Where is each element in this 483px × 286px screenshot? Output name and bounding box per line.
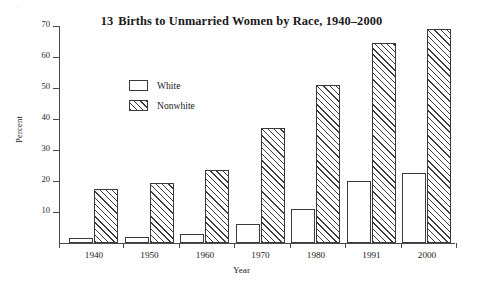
- bar-nonwhite-1940: [94, 189, 118, 243]
- x-tick-1980: [345, 243, 346, 248]
- bar-white-1991: [347, 181, 371, 243]
- x-tick-1970: [290, 243, 291, 248]
- x-tick-label-1940: 1940: [69, 250, 119, 260]
- legend-entry-nonwhite: Nonwhite: [129, 97, 195, 113]
- y-axis-line: [59, 26, 60, 244]
- bar-group: [402, 26, 451, 243]
- bar-nonwhite-2000: [427, 29, 451, 243]
- y-tick-20: 20: [53, 181, 59, 182]
- bar-white-1960: [180, 234, 204, 243]
- legend-entry-white: White: [129, 77, 195, 93]
- x-tick-label-1960: 1960: [180, 250, 230, 260]
- legend-swatch-empty-box: [129, 80, 148, 91]
- y-tick-label-10: 10: [41, 205, 50, 215]
- bar-nonwhite-1960: [205, 170, 229, 243]
- x-tick-1991: [401, 243, 402, 248]
- bar-nonwhite-1950: [150, 183, 174, 243]
- bar-nonwhite-1980: [316, 85, 340, 243]
- plot-area: 10203040506070 1940195019601970198019912…: [59, 26, 455, 243]
- y-tick-label-70: 70: [41, 19, 50, 29]
- x-tick-origin: [59, 243, 60, 248]
- y-tick-label-20: 20: [41, 174, 50, 184]
- legend-swatch-diagonal-hatched-box: [129, 100, 148, 111]
- bar-nonwhite-1991: [372, 43, 396, 243]
- x-tick-1940: [123, 243, 124, 248]
- bar-group: [291, 26, 340, 243]
- x-tick-label-1950: 1950: [125, 250, 175, 260]
- y-tick-10: 10: [53, 212, 59, 213]
- x-axis-line: [59, 243, 455, 244]
- x-tick-label-1980: 1980: [291, 250, 341, 260]
- y-tick-60: 60: [53, 57, 59, 58]
- x-tick-2000: [456, 243, 457, 248]
- y-tick-label-40: 40: [41, 112, 50, 122]
- chart-figure: .. 13Births to Unmarried Women by Race, …: [0, 0, 483, 286]
- chart-legend: WhiteNonwhite: [129, 77, 195, 117]
- y-tick-label-60: 60: [41, 50, 50, 60]
- scan-artifact: ..: [16, 1, 22, 9]
- x-tick-label-1991: 1991: [347, 250, 397, 260]
- x-tick-1950: [179, 243, 180, 248]
- bar-group: [69, 26, 118, 243]
- bar-group: [180, 26, 229, 243]
- bar-white-1940: [69, 238, 93, 243]
- bar-white-2000: [402, 173, 426, 243]
- bar-white-1950: [125, 237, 149, 243]
- bar-white-1980: [291, 209, 315, 243]
- bar-group: [347, 26, 396, 243]
- legend-label: Nonwhite: [157, 100, 195, 111]
- x-tick-1960: [234, 243, 235, 248]
- y-tick-70: 70: [53, 26, 59, 27]
- y-tick-label-50: 50: [41, 81, 50, 91]
- y-tick-40: 40: [53, 119, 59, 120]
- y-axis-label: Percent: [14, 116, 24, 143]
- x-tick-label-1970: 1970: [236, 250, 286, 260]
- legend-label: White: [157, 80, 180, 91]
- bar-nonwhite-1970: [261, 128, 285, 243]
- y-tick-30: 30: [53, 150, 59, 151]
- x-tick-label-2000: 2000: [402, 250, 452, 260]
- bar-group: [125, 26, 174, 243]
- y-tick-50: 50: [53, 88, 59, 89]
- x-axis-label: Year: [0, 265, 483, 275]
- bar-white-1970: [236, 224, 260, 243]
- bar-group: [236, 26, 285, 243]
- y-tick-label-30: 30: [41, 143, 50, 153]
